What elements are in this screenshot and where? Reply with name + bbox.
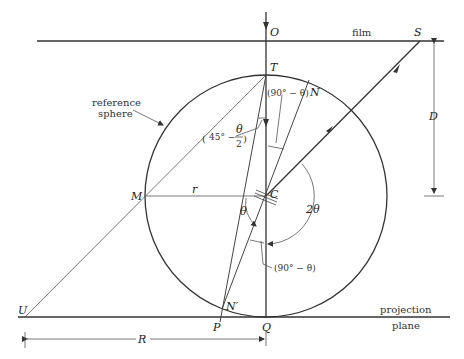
svg-text:2: 2 <box>236 139 242 149</box>
svg-text:45° −: 45° − <box>209 132 235 142</box>
label-N-prime: N′ <box>225 300 239 313</box>
label-S: S <box>414 26 422 39</box>
beam-arrow-top-icon <box>263 22 269 30</box>
label-projection: projection <box>380 304 432 315</box>
label-D: D <box>428 110 438 123</box>
svg-text:(: ( <box>202 133 206 144</box>
angle-90-theta-top-mark <box>268 146 284 149</box>
angle-theta-arc <box>246 198 256 226</box>
label-N: N <box>309 86 320 99</box>
label-plane: plane <box>392 320 420 331</box>
beam-arrow-mid-icon <box>263 119 269 127</box>
svg-text:): ) <box>243 133 247 144</box>
label-90-theta-top: (90° − θ) <box>267 88 309 98</box>
label-R: R <box>137 333 146 346</box>
svg-text:θ: θ <box>236 123 243 136</box>
label-M: M <box>130 190 143 203</box>
reference-sphere-pointer <box>133 110 163 125</box>
angle-90-theta-bottom-mark <box>250 240 264 243</box>
label-C: C <box>270 188 279 201</box>
angle-90-theta-top-leader <box>276 95 282 143</box>
label-Q: Q <box>262 321 271 334</box>
label-2theta: 2θ <box>305 203 320 216</box>
label-45-minus-theta-half: ( 45° − θ 2 ) <box>202 123 247 149</box>
label-theta: θ <box>240 205 247 218</box>
label-90-theta-bottom: (90° − θ) <box>274 263 316 273</box>
label-film: film <box>352 27 372 38</box>
label-O: O <box>270 26 279 39</box>
label-sphere: sphere <box>98 108 133 119</box>
label-P: P <box>212 321 221 334</box>
diagram-canvas: O S T N C M U P N′ Q film reference sphe… <box>0 0 464 359</box>
label-r: r <box>192 183 198 196</box>
diffracted-beam-line <box>266 41 420 196</box>
label-U: U <box>18 304 28 317</box>
label-T: T <box>270 61 279 74</box>
label-reference: reference <box>92 97 141 108</box>
